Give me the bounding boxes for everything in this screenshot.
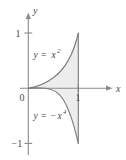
- x-axis-label: x: [115, 83, 121, 94]
- svg-text:4: 4: [63, 108, 67, 115]
- annotation-upper-curve: y = x 2: [33, 47, 62, 60]
- x-axis-arrow-icon: [106, 86, 113, 91]
- svg-text:x: x: [57, 111, 63, 121]
- svg-text:y: y: [33, 111, 39, 121]
- plot-svg: y x 1 −1 1 0 y = x 2 y = − x 4: [0, 0, 126, 160]
- y-tick-label-neg1: −1: [12, 138, 23, 149]
- annotation-lower-curve: y = − x 4: [33, 108, 68, 121]
- svg-text:x: x: [51, 50, 57, 60]
- figure-container: y x 1 −1 1 0 y = x 2 y = − x 4: [0, 0, 126, 160]
- svg-text:−: −: [51, 111, 56, 121]
- origin-label: 0: [20, 92, 25, 103]
- y-axis-label: y: [32, 5, 38, 16]
- y-axis-arrow-icon: [26, 13, 31, 20]
- svg-text:2: 2: [57, 47, 61, 54]
- svg-text:=: =: [41, 111, 46, 121]
- y-tick-label-1: 1: [16, 28, 21, 39]
- svg-text:=: =: [41, 50, 46, 60]
- x-tick-label-1: 1: [76, 92, 81, 103]
- svg-text:y: y: [33, 50, 39, 60]
